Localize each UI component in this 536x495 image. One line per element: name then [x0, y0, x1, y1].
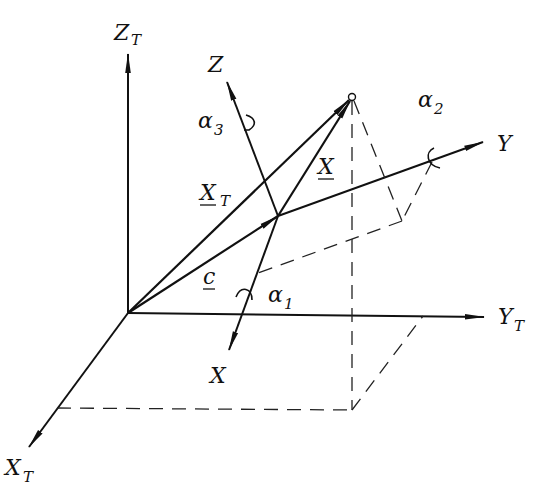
label-y: Y: [497, 131, 514, 156]
label-z: Z: [207, 52, 224, 77]
label-alpha1-sub: 1: [284, 295, 294, 313]
xt-axis: [29, 313, 128, 447]
label-zt: Z: [113, 20, 130, 45]
xt-to-ground-corner: [57, 408, 352, 410]
point-marker: [349, 94, 356, 101]
corner-to-x: [258, 221, 402, 273]
coordinate-frame-diagram: Z T Y T X T Z Y X X T X c α 3 α 2 α 1: [0, 0, 536, 495]
label-c-vector: c: [203, 264, 215, 289]
projection-lines: [57, 101, 432, 410]
label-yt: Y: [498, 304, 515, 329]
y-to-corner: [402, 162, 432, 221]
label-x: X: [208, 363, 227, 388]
global-axes: [29, 54, 484, 447]
local-axes: [227, 82, 483, 350]
alpha3-rotation-icon: [244, 115, 254, 130]
label-xt-axis-sub: T: [23, 468, 34, 486]
label-xt-axis: X: [3, 455, 22, 480]
label-alpha2: α: [418, 87, 433, 112]
label-x-vector: X: [316, 154, 335, 179]
yt-axis: [128, 313, 484, 317]
point-to-xy-corner: [354, 101, 402, 221]
label-alpha3-sub: 3: [214, 121, 224, 139]
label-xt-vector: X: [198, 180, 217, 205]
label-xt-vector-sub: T: [220, 192, 231, 210]
vectors: [128, 94, 356, 314]
ground-corner-to-yt: [352, 316, 423, 410]
label-alpha2-sub: 2: [433, 100, 444, 118]
y-axis: [278, 142, 483, 216]
label-alpha3: α: [198, 108, 213, 133]
z-axis: [227, 82, 278, 216]
label-alpha1: α: [268, 282, 283, 307]
xt-vector: [128, 100, 349, 313]
label-yt-sub: T: [514, 317, 525, 335]
label-zt-sub: T: [131, 31, 142, 49]
